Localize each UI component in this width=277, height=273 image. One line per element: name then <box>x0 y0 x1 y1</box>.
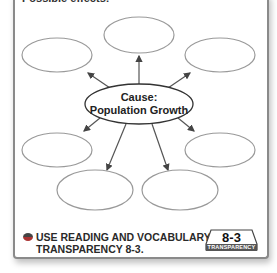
transparency-instruction: USE READING AND VOCABULARY TRANSPARENCY … <box>36 231 211 255</box>
cause-label: Cause: <box>121 91 158 103</box>
effect-bubble-lower-left[interactable] <box>57 170 133 210</box>
instruction-line-2: TRANSPARENCY 8-3. <box>36 243 211 255</box>
cause-value: Population Growth <box>90 104 189 116</box>
effect-bubble-top-right[interactable] <box>185 38 255 72</box>
badge-label: TRANSPARENCY <box>206 244 257 251</box>
transparency-badge: 8-3 TRANSPARENCY <box>205 229 258 251</box>
effect-bubble-top-left[interactable] <box>22 38 92 72</box>
badge-number: 8-3 <box>205 230 258 245</box>
instruction-line-1: USE READING AND VOCABULARY <box>36 231 211 243</box>
effect-bubble-bottom-right[interactable] <box>185 133 255 167</box>
effect-bubble-top[interactable] <box>104 17 174 53</box>
effect-bubble-bottom-left[interactable] <box>22 133 92 167</box>
bullet-icon <box>23 233 33 241</box>
effect-bubble-lower-right[interactable] <box>142 170 218 210</box>
